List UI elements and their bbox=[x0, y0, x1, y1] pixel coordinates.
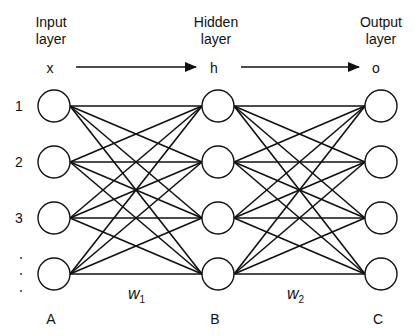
input-layer-header-line2: layer bbox=[36, 31, 67, 47]
layer-letter-c: C bbox=[373, 311, 383, 327]
layer-letter-b: B bbox=[210, 311, 219, 327]
output-node-1 bbox=[365, 90, 397, 122]
output-layer-header-line2: layer bbox=[366, 31, 397, 47]
hidden-node-4 bbox=[202, 258, 234, 290]
output-symbol: o bbox=[372, 60, 380, 76]
ellipsis-dot bbox=[20, 257, 22, 259]
hidden-layer-header-line1: Hidden bbox=[194, 14, 238, 30]
output-node-2 bbox=[365, 146, 397, 178]
input-layer-header-line1: Input bbox=[35, 14, 66, 30]
row-labels: 1 2 3 bbox=[15, 98, 23, 292]
hidden-node-2 bbox=[202, 146, 234, 178]
row-label-2: 2 bbox=[15, 154, 23, 170]
input-node-3 bbox=[38, 202, 70, 234]
input-node-4 bbox=[38, 258, 70, 290]
neuron-nodes bbox=[38, 90, 397, 290]
output-layer-header-line1: Output bbox=[360, 14, 402, 30]
input-node-2 bbox=[38, 146, 70, 178]
output-node-4 bbox=[365, 258, 397, 290]
ellipsis-dot bbox=[20, 273, 22, 275]
hidden-node-3 bbox=[202, 202, 234, 234]
input-node-1 bbox=[38, 90, 70, 122]
ellipsis-dot bbox=[20, 290, 22, 292]
weight-label-w2: w2 bbox=[287, 285, 305, 305]
layer-letters: A B C bbox=[46, 311, 383, 327]
neural-network-diagram: Input layer Hidden layer Output layer x … bbox=[0, 0, 414, 336]
weight-label-w1: w1 bbox=[128, 285, 146, 305]
hidden-layer-header-line2: layer bbox=[201, 31, 232, 47]
row-label-1: 1 bbox=[15, 98, 23, 114]
input-symbol: x bbox=[47, 60, 54, 76]
row-label-3: 3 bbox=[15, 210, 23, 226]
hidden-node-1 bbox=[202, 90, 234, 122]
layer-letter-a: A bbox=[46, 311, 56, 327]
connection-edges bbox=[70, 106, 365, 274]
layer-symbols: x h o bbox=[47, 60, 381, 76]
hidden-symbol: h bbox=[210, 60, 218, 76]
output-node-3 bbox=[365, 202, 397, 234]
layer-headers: Input layer Hidden layer Output layer bbox=[35, 14, 402, 47]
